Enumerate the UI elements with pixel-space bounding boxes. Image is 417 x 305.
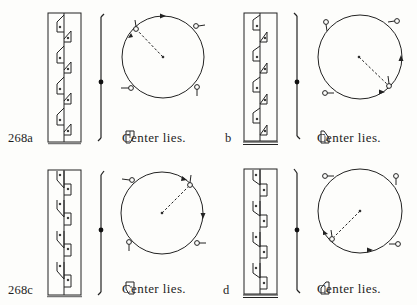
- panel-label: 268c: [8, 283, 33, 298]
- caption: Center lies.: [122, 281, 186, 297]
- panel-d-drawing: [209, 150, 417, 305]
- pin-markers: [323, 174, 401, 247]
- direction-arrows: [128, 14, 166, 39]
- glide-axis: [98, 14, 104, 141]
- panel-268c: 268c Center lies.: [0, 150, 209, 302]
- pin-markers: [323, 19, 400, 96]
- tile-glyph-icon: [320, 281, 330, 295]
- rotation-center-dot: [295, 228, 300, 233]
- panel-label: b: [225, 131, 231, 146]
- rotation-center-dot: [99, 80, 104, 85]
- caption: Center lies.: [122, 130, 186, 146]
- glide-axis: [98, 171, 104, 295]
- rotation-center-dot: [295, 80, 300, 85]
- panel-268d: d Center lies.: [209, 150, 417, 302]
- tile-glyph-icon: [125, 281, 135, 295]
- panel-268a: 268a Center lies.: [0, 0, 209, 152]
- panel-label: 268a: [8, 131, 33, 146]
- panel-268b: b Center lies.: [209, 0, 417, 152]
- glide-axis: [294, 13, 300, 139]
- direction-arrows: [379, 55, 404, 95]
- tile-glyph-icon: [125, 130, 135, 144]
- direction-arrows: [181, 176, 206, 219]
- panel-b-drawing: [209, 0, 417, 152]
- rotation-center-dot: [99, 228, 104, 233]
- glide-strip: [243, 13, 278, 145]
- panel-label: d: [223, 283, 229, 298]
- glide-strip: [48, 13, 81, 144]
- tile-glyph-icon: [320, 130, 330, 144]
- caption: Center lies.: [317, 130, 381, 146]
- caption: Center lies.: [317, 281, 381, 297]
